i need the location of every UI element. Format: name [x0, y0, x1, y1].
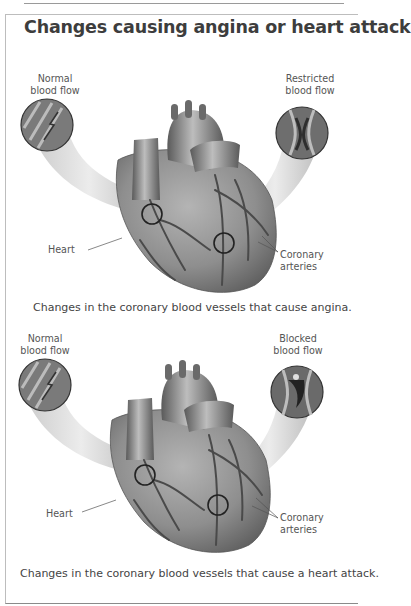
coronary-arteries-label: Coronary arteries	[280, 512, 324, 536]
left-inset-label-line2: blood flow	[30, 85, 80, 97]
caption-angina: Changes in the coronary blood vessels th…	[33, 301, 352, 314]
heart-label: Heart	[48, 244, 75, 256]
right-inset-label-line2: blood flow	[273, 345, 323, 357]
aortic-branch	[165, 364, 172, 380]
right-inset-label-line1: Restricted	[280, 73, 340, 85]
coronary-arteries-label-line2: arteries	[280, 524, 324, 536]
inset-blocked-flow	[271, 366, 323, 418]
aortic-branch	[193, 364, 200, 380]
left-inset-label: Normal blood flow	[30, 73, 80, 97]
heart-leader-line	[82, 500, 116, 512]
left-inset-label-line2: blood flow	[20, 345, 70, 357]
coronary-arteries-label: Coronary arteries	[280, 249, 324, 273]
aortic-branch	[179, 360, 186, 378]
caption-heart-attack: Changes in the coronary blood vessels th…	[20, 567, 379, 580]
left-inset-label-line1: Normal	[20, 333, 70, 345]
coronary-arteries-label-line1: Coronary	[280, 249, 324, 261]
heart-label: Heart	[46, 508, 73, 520]
aortic-branch	[185, 100, 192, 118]
inset-normal-flow	[21, 99, 73, 151]
vena-cava	[132, 138, 160, 200]
left-inset-label-line1: Normal	[30, 73, 80, 85]
vena-cava	[126, 398, 154, 460]
coronary-arteries-label-line2: arteries	[280, 261, 324, 273]
inset-restricted-flow	[276, 107, 328, 159]
right-inset-label: Restricted blood flow	[280, 73, 340, 97]
coronary-arteries-label-line1: Coronary	[280, 512, 324, 524]
heart-leader-line	[88, 238, 122, 250]
right-inset-label-line1: Blocked	[273, 333, 323, 345]
aortic-branch	[199, 104, 206, 120]
inset-normal-flow	[19, 359, 71, 411]
aortic-branch	[171, 104, 178, 120]
right-inset-label: Blocked blood flow	[273, 333, 323, 357]
panel-heart-attack	[19, 359, 323, 552]
left-inset-label: Normal blood flow	[20, 333, 70, 357]
right-inset-label-line2: blood flow	[280, 85, 340, 97]
